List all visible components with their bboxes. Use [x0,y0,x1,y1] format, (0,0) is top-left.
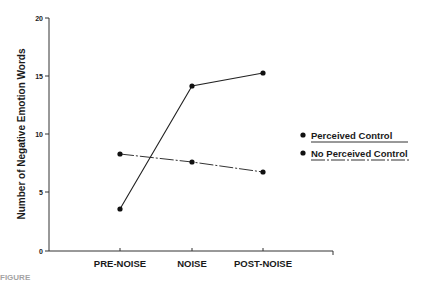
data-point [189,83,194,88]
legend-label: Perceived Control [311,130,392,141]
legend-marker-icon [300,150,305,155]
y-tick-label: 10 [35,131,43,138]
data-point [260,70,265,75]
series-perceived-control [117,70,265,211]
x-category-label: PRE-NOISE [94,258,146,269]
figure-caption: FIGURE [0,273,424,283]
legend: Perceived Control No Perceived Control [300,130,410,160]
data-point [117,206,122,211]
y-tick-label: 20 [35,15,43,22]
y-ticks: 20 15 10 5 0 [35,15,49,255]
legend-marker-icon [300,132,305,137]
x-category-label: NOISE [177,258,207,269]
y-tick-label: 15 [35,73,43,80]
series-no-perceived-control [117,151,265,174]
legend-label: No Perceived Control [311,148,408,159]
legend-item-perceived-control: Perceived Control [300,130,408,142]
y-axis-label: Number of Negative Emotion Words [16,48,27,219]
data-point [189,159,194,164]
legend-item-no-perceived-control: No Perceived Control [300,148,410,160]
line-chart: 20 15 10 5 0 PRE-NOISE NOISE POST-NOISE … [0,0,424,283]
data-point [260,169,265,174]
data-point [117,151,122,156]
x-category-label: POST-NOISE [234,258,292,269]
y-tick-label: 0 [39,248,43,255]
y-tick-label: 5 [39,189,43,196]
